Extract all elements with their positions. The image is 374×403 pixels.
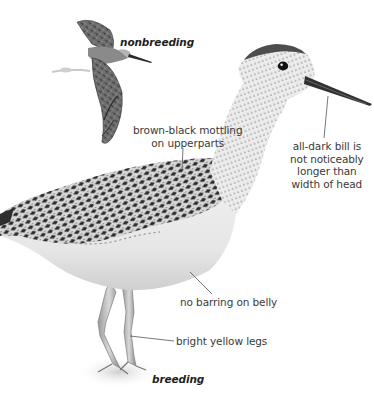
callout-bill: all-dark bill is not noticeably longer t… bbox=[290, 140, 364, 190]
leader-line-bill bbox=[324, 96, 328, 138]
field-guide-illustration: nonbreeding breeding brown-black mottlin… bbox=[0, 0, 374, 403]
callout-bill-line-2: not noticeably bbox=[290, 153, 364, 166]
callout-upperparts: brown-black mottling on upperparts bbox=[133, 124, 242, 149]
callout-legs-line-1: bright yellow legs bbox=[176, 335, 267, 348]
callout-legs: bright yellow legs bbox=[176, 335, 267, 348]
callout-bill-line-1: all-dark bill is bbox=[290, 140, 364, 153]
breeding-label: breeding bbox=[152, 373, 204, 386]
callout-belly: no barring on belly bbox=[180, 296, 277, 309]
callout-upperparts-line-1: brown-black mottling bbox=[133, 124, 242, 137]
callout-bill-line-3: longer than bbox=[290, 165, 364, 178]
callout-bill-line-4: width of head bbox=[290, 178, 364, 191]
leader-line-belly bbox=[190, 272, 212, 294]
callout-belly-line-1: no barring on belly bbox=[180, 296, 277, 309]
nonbreeding-label: nonbreeding bbox=[120, 36, 194, 49]
callout-upperparts-line-2: on upperparts bbox=[133, 137, 242, 150]
leader-line-legs bbox=[130, 336, 174, 341]
